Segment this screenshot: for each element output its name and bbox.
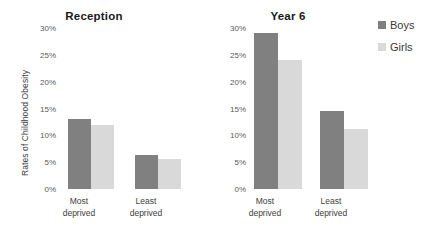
legend-swatch-boys (378, 21, 386, 29)
y-tick-15: 15% (230, 104, 246, 113)
x-label-most-deprived: Most deprived (44, 195, 114, 219)
bar-group-most-deprived (68, 28, 114, 189)
legend-swatch-girls (378, 43, 386, 51)
bar-year6-least-girls (344, 129, 368, 189)
x-label-line1: Most (44, 195, 114, 207)
bar-group-least-deprived (135, 28, 181, 189)
legend-item-boys: Boys (378, 18, 434, 31)
y-tick-0: 0% (234, 185, 246, 194)
y-tick-30: 30% (40, 24, 56, 33)
bar-group-least-deprived (320, 28, 368, 189)
y-tick-5: 5% (44, 158, 56, 167)
legend-label-boys: Boys (390, 19, 414, 31)
x-label-least-deprived: Least deprived (296, 195, 366, 219)
y-tick-25: 25% (40, 50, 56, 59)
x-label-line2: deprived (296, 207, 366, 219)
x-label-line2: deprived (230, 207, 300, 219)
bar-reception-least-boys (135, 155, 158, 189)
y-tick-20: 20% (40, 77, 56, 86)
bar-group-most-deprived (254, 28, 302, 189)
chart-figure: Rates of Childhood Obesity Reception 30%… (0, 0, 434, 244)
bar-reception-least-girls (158, 159, 181, 189)
legend-item-girls: Girls (378, 40, 434, 53)
x-label-line2: deprived (44, 207, 114, 219)
x-label-line1: Least (296, 195, 366, 207)
y-tick-20: 20% (230, 77, 246, 86)
plot-area-reception (60, 28, 208, 189)
bar-year6-least-boys (320, 111, 344, 189)
y-tick-10: 10% (40, 131, 56, 140)
bar-year6-most-boys (254, 33, 278, 189)
plot-area-year6 (250, 28, 370, 189)
bar-reception-most-girls (91, 125, 114, 189)
x-label-line2: deprived (111, 207, 181, 219)
legend-label-girls: Girls (390, 41, 413, 53)
y-tick-10: 10% (230, 131, 246, 140)
x-label-least-deprived: Least deprived (111, 195, 181, 219)
bar-year6-most-girls (278, 60, 302, 189)
chart-panel-reception: Reception 30% 25% 20% 15% 10% 5% 0% Most… (24, 0, 214, 244)
y-tick-0: 0% (44, 185, 56, 194)
y-tick-25: 25% (230, 50, 246, 59)
chart-panel-year6: Year 6 30% 25% 20% 15% 10% 5% 0% Most de… (214, 0, 374, 244)
bar-reception-most-boys (68, 119, 91, 189)
x-label-line1: Most (230, 195, 300, 207)
y-tick-5: 5% (234, 158, 246, 167)
x-label-most-deprived: Most deprived (230, 195, 300, 219)
y-tick-30: 30% (230, 24, 246, 33)
y-tick-15: 15% (40, 104, 56, 113)
chart-legend: Boys Girls (378, 18, 434, 62)
x-label-line1: Least (111, 195, 181, 207)
